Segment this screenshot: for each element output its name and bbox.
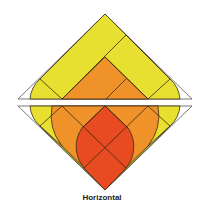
upper-half [18,14,192,99]
horizontal-section-diagram [0,0,204,210]
diagram-caption: Horizontal [0,193,204,202]
lower-half [18,106,192,190]
